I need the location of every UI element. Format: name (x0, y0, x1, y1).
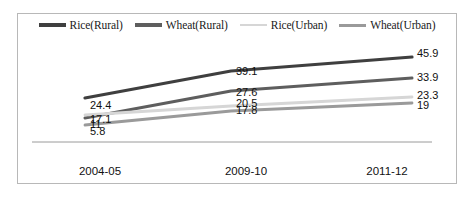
x-tick-label-2004-05: 2004-05 (79, 165, 121, 177)
data-label-wheat-urban-2011-12: 19 (417, 99, 429, 111)
data-label-rice-rural-2009-10: 39.1 (236, 65, 257, 77)
x-tick-label-2011-12: 2011-12 (366, 165, 407, 177)
x-tick-label-2009-10: 2009-10 (225, 165, 267, 177)
data-label-rice-rural-2011-12: 45.9 (417, 47, 438, 59)
data-label-wheat-urban-2009-10: 17.8 (236, 104, 257, 116)
plot-area: 24.4 17.1 11 5.8 39.1 27.6 20.5 17.8 45.… (17, 13, 457, 184)
data-label-wheat-urban-2004-05: 5.8 (90, 125, 105, 137)
data-label-rice-rural-2004-05: 24.4 (90, 99, 111, 111)
data-label-wheat-rural-2011-12: 33.9 (417, 71, 438, 83)
chart-container: Rice(Rural) Wheat(Rural) Rice(Urban) Whe… (0, 0, 474, 199)
